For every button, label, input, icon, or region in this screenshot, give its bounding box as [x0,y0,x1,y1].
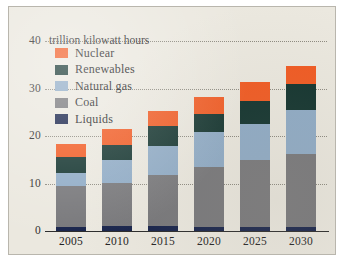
bar-segment-natural-gas [286,110,316,154]
bar-segment-renewables [194,114,224,132]
bar-segment-renewables [148,126,178,146]
bar-segment-nuclear [194,97,224,114]
xtick-label-2005: 2005 [47,235,95,247]
bar-stack [56,144,86,231]
xtick-label-2030: 2030 [277,235,325,247]
bar-segment-coal [56,186,86,227]
bar-segment-natural-gas [102,160,132,183]
legend-swatch-natural-gas-icon [55,81,68,91]
bar-stack [148,111,178,231]
bar-segment-natural-gas [148,146,178,175]
bar-group-2020[interactable] [194,97,224,231]
bar-stack [194,97,224,231]
bar-segment-natural-gas [56,173,86,186]
bar-segment-coal [148,175,178,226]
legend-swatch-liquids-icon [55,114,68,124]
xtick-label-2020: 2020 [185,235,233,247]
bar-segment-coal [240,160,270,227]
chart-paper-panel: 40 trillion kilowatt hours 30 20 10 0 [8,6,336,255]
bar-segment-nuclear [56,144,86,157]
legend-swatch-renewables-icon [55,65,68,75]
xtick-label-2010: 2010 [93,235,141,247]
bar-segment-coal [194,167,224,227]
legend-label-coal: Coal [75,95,98,110]
bar-segment-coal [102,183,132,226]
bar-segment-nuclear [286,66,316,84]
bar-segment-renewables [286,84,316,110]
bar-stack [286,66,316,231]
bar-segment-nuclear [102,129,132,145]
legend-item-nuclear[interactable]: Nuclear [55,45,135,62]
legend-label-renewables: Renewables [75,62,135,77]
bar-segment-nuclear [148,111,178,126]
bar-stack [102,129,132,231]
legend-swatch-nuclear-icon [55,48,68,58]
plot-area: 40 trillion kilowatt hours 30 20 10 0 [9,7,336,255]
xtick-label-2015: 2015 [139,235,187,247]
bar-group-2030[interactable] [286,66,316,231]
legend: Nuclear Renewables Natural gas Coal Liqu… [55,45,135,128]
legend-label-nuclear: Nuclear [75,46,114,61]
bar-segment-renewables [240,101,270,124]
bar-group-2005[interactable] [56,144,86,231]
legend-item-natural-gas[interactable]: Natural gas [55,78,135,95]
legend-item-liquids[interactable]: Liquids [55,111,135,128]
bar-group-2015[interactable] [148,111,178,231]
legend-item-coal[interactable]: Coal [55,95,135,112]
bar-segment-natural-gas [240,124,270,160]
bar-segment-nuclear [240,82,270,101]
bar-stack [240,82,270,231]
xtick-label-2025: 2025 [231,235,279,247]
bar-segment-coal [286,154,316,227]
legend-swatch-coal-icon [55,98,68,108]
x-axis-line [45,231,329,232]
legend-label-liquids: Liquids [75,112,113,127]
bar-segment-renewables [102,145,132,160]
legend-label-natural-gas: Natural gas [75,79,132,94]
legend-item-renewables[interactable]: Renewables [55,62,135,79]
bar-group-2025[interactable] [240,82,270,231]
bar-group-2010[interactable] [102,129,132,231]
stacked-bar-chart-figure: 40 trillion kilowatt hours 30 20 10 0 [0,0,344,261]
bar-segment-renewables [56,157,86,173]
bar-segment-natural-gas [194,132,224,167]
